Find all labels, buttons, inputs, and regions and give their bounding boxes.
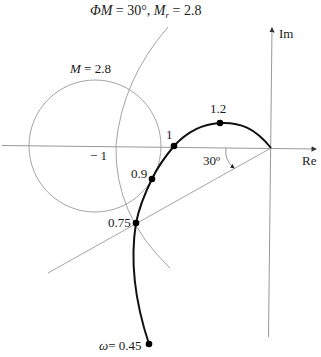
imaginary-axis	[269, 28, 273, 337]
label-omega-0-9: 0.9	[131, 166, 147, 181]
point-omega-0-9	[149, 176, 156, 183]
label-omega-1-2: 1.2	[210, 101, 226, 116]
label-omega-0-45: ω= 0.45	[99, 338, 142, 353]
point-omega-1	[171, 143, 178, 150]
label-omega-0-75: 0.75	[108, 215, 131, 230]
point-omega-1-2	[217, 120, 224, 127]
diagram-title: ΦM = 30°, Mr = 2.8	[90, 3, 201, 20]
imaginary-axis-label: Im	[279, 26, 293, 41]
angle-arc	[226, 148, 234, 168]
nyquist-diagram: ΦM = 30°, Mr = 2.8 Re Im − 1 M = 2.8 30º…	[0, 0, 321, 357]
m-circle-label: M = 2.8	[69, 61, 111, 76]
point-omega-0-45	[146, 341, 153, 348]
real-axis-label: Re	[302, 153, 317, 168]
point-omega-0-75	[133, 220, 140, 227]
label-omega-1: 1	[166, 127, 173, 142]
angle-label: 30º	[203, 153, 220, 168]
minus-one-label: − 1	[90, 148, 107, 163]
